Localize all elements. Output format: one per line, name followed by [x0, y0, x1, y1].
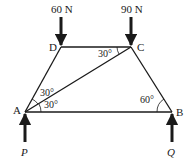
- load-label-C: 90 N: [121, 3, 143, 15]
- angle-label-ABC: 60°: [140, 94, 154, 105]
- arc-angle-CAB: [39, 104, 41, 112]
- angle-label-DCA: 30°: [98, 48, 112, 59]
- truss-diagram: 60 N 90 N D C A B 30° 30° 30° 60° P Q: [0, 0, 191, 164]
- point-label-D: D: [49, 41, 57, 53]
- point-label-A: A: [13, 104, 21, 116]
- point-label-C: C: [137, 41, 144, 53]
- load-label-D: 60 N: [51, 3, 73, 15]
- load-arrows: [25, 17, 172, 142]
- reaction-label-P: P: [20, 146, 28, 158]
- angle-label-DAC: 30°: [40, 87, 54, 98]
- angle-label-CAB: 30°: [44, 99, 58, 110]
- arc-angle-DAC: [32, 99, 38, 104]
- reaction-label-Q: Q: [167, 146, 175, 158]
- arc-angle-ABC: [157, 99, 164, 112]
- member-AC: [25, 47, 131, 112]
- arc-angle-DCA: [117, 47, 119, 54]
- point-label-B: B: [176, 106, 183, 118]
